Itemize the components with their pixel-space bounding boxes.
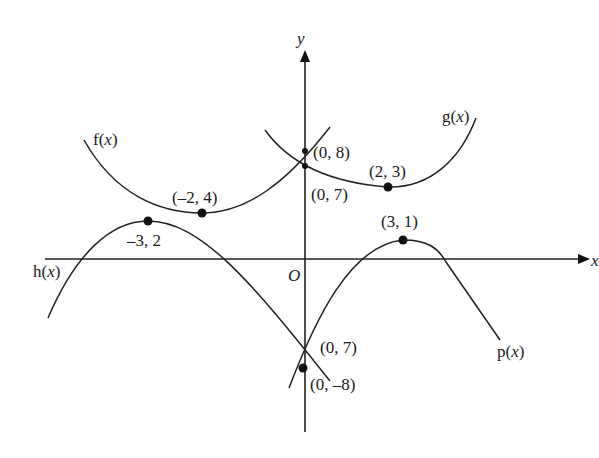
x-axis-label: x <box>590 251 599 270</box>
origin-label: O <box>288 266 300 285</box>
label-f: f(x) <box>93 130 118 149</box>
graph-canvas: x y O f(x) g(x) h(x) p(x) (–2, 4) (0, 8)… <box>0 0 599 458</box>
label-p: p(x) <box>497 342 524 361</box>
y-axis-label: y <box>295 29 305 48</box>
function-graph-figure: x y O f(x) g(x) h(x) p(x) (–2, 4) (0, 8)… <box>0 0 599 458</box>
point-p-y-intercept <box>299 364 308 373</box>
point-p-max <box>399 236 408 245</box>
label-p-max: (3, 1) <box>381 212 418 231</box>
point-g-min <box>384 183 393 192</box>
label-h-max: –3, 2 <box>126 231 161 250</box>
label-h: h(x) <box>33 262 60 281</box>
point-h-max <box>144 217 153 226</box>
curve-h <box>48 221 330 381</box>
label-f-min: (–2, 4) <box>172 188 217 207</box>
point-g-y-intercept <box>302 163 308 169</box>
label-g-y-intercept: (0, 7) <box>311 185 348 204</box>
point-f-y-intercept <box>302 148 308 154</box>
label-g: g(x) <box>442 107 469 126</box>
label-g-min: (2, 3) <box>369 162 406 181</box>
label-p-y-intercept: (0, –8) <box>310 375 355 394</box>
label-h-y-intercept: (0, 7) <box>320 338 357 357</box>
curve-p <box>289 240 500 388</box>
point-f-min <box>198 209 207 218</box>
label-f-y-intercept: (0, 8) <box>313 143 350 162</box>
